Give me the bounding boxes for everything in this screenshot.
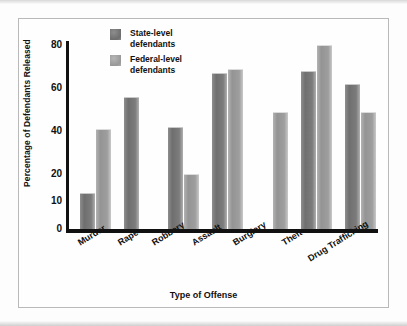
y-tick-label: 20: [51, 169, 62, 179]
bar-state: [345, 84, 360, 229]
legend-item-state: State-leveldefendants: [110, 28, 240, 49]
legend-item-federal: Federal-leveldefendants: [110, 54, 240, 75]
y-tick-label: 80: [51, 40, 62, 50]
y-axis-ticks: 01020406080: [38, 41, 62, 231]
bar-group: [295, 41, 339, 229]
bar-federal: [273, 112, 288, 229]
bar-federal: [184, 174, 199, 229]
bar-federal: [361, 112, 376, 229]
x-axis-title: Type of Offense: [0, 290, 407, 300]
bar-state: [301, 71, 316, 229]
bar-federal: [228, 69, 243, 229]
state-swatch-icon: [110, 29, 121, 40]
legend-label-federal: Federal-leveldefendants: [130, 54, 182, 75]
bar-state: [168, 127, 183, 229]
bar-state: [212, 73, 227, 229]
bar-federal: [317, 45, 332, 229]
chart-legend: State-leveldefendants Federal-leveldefen…: [110, 28, 240, 80]
x-axis-ticks: MurderRapeRobberyAssaultBurglaryTheftDru…: [66, 233, 386, 293]
y-tick-label: 60: [51, 83, 62, 93]
chart-figure: Percentage of Defendants Released 010204…: [0, 0, 407, 326]
page-edge-top: [0, 0, 407, 4]
bar-group: [251, 41, 295, 229]
y-tick-label: 40: [51, 126, 62, 136]
y-tick-label: 10: [51, 196, 62, 206]
bar-federal: [96, 129, 111, 229]
bar-group: [339, 41, 383, 229]
y-axis-title: Percentage of Defendants Released: [22, 23, 32, 203]
bar-state: [80, 193, 95, 229]
y-tick-label: 0: [56, 224, 62, 234]
page-edge-bottom: [0, 321, 407, 326]
legend-label-state: State-leveldefendants: [130, 28, 175, 49]
federal-swatch-icon: [110, 55, 121, 66]
bar-state: [124, 97, 139, 229]
